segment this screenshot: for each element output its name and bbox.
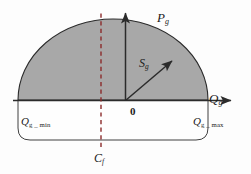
- label-active-power: Pg: [157, 11, 169, 26]
- label-reactive-power-min: Qg _ min: [21, 116, 50, 129]
- label-reactive-power-max: Qg _ max: [193, 116, 224, 129]
- label-apparent-power: Sg: [139, 57, 149, 71]
- capability-diagram-figure: Pg Qg Sg 0 Qg _ min Qg _ max Cf: [0, 0, 251, 174]
- label-reactive-power: Qg: [209, 92, 223, 107]
- capability-area: [18, 19, 208, 100]
- label-origin: 0: [130, 106, 136, 117]
- diagram-canvas: [0, 0, 251, 174]
- label-fixed-capacitor: Cf: [94, 152, 104, 166]
